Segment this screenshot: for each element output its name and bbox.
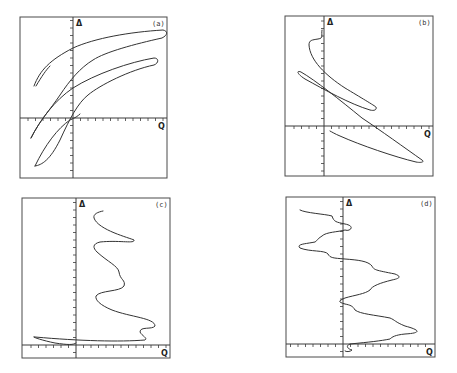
q-axis-label: Q [424, 130, 431, 139]
trajectory-curve [299, 210, 417, 352]
trajectory-curve [298, 30, 423, 162]
q-axis-label: Q [161, 349, 168, 358]
delta-axis-label: Δ [346, 199, 353, 208]
trajectory-curve [31, 30, 167, 138]
q-axis-label: Q [426, 348, 433, 357]
panel-b: ΔQ(b) [285, 16, 433, 176]
panel-tag: (b) [418, 19, 431, 27]
delta-axis-label: Δ [76, 19, 83, 28]
trajectory-curve [34, 211, 155, 345]
delta-axis-label: Δ [79, 200, 86, 209]
figure: ΔQ(a) ΔQ(b) ΔQ(c) ΔQ(d) [0, 0, 457, 373]
panel-tag: (a) [152, 20, 165, 28]
panel-d: ΔQ(d) [286, 197, 435, 357]
panel-a: ΔQ(a) [20, 17, 167, 178]
q-axis-label: Q [158, 122, 165, 131]
panel-tag: (d) [420, 200, 433, 208]
delta-axis-label: Δ [327, 18, 334, 27]
plot-frame [20, 17, 167, 178]
panel-tag: (c) [155, 201, 168, 209]
trajectory-curve [31, 58, 158, 166]
panel-c: ΔQ(c) [22, 198, 170, 358]
trajectory-curve [36, 66, 50, 86]
